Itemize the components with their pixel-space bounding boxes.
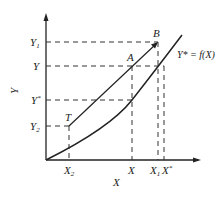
- x2-label: X2: [63, 164, 75, 178]
- x1-label: X1: [149, 164, 160, 178]
- x-label: X: [127, 164, 136, 176]
- curve-label: Y* = f(X): [177, 49, 216, 61]
- x-axis-arrow-icon: [193, 158, 201, 163]
- xstar-label: X*: [161, 164, 173, 176]
- y-axis-arrow-icon: [44, 13, 49, 21]
- x-axis-title: X: [112, 176, 121, 188]
- y-axis-title: Y: [8, 86, 20, 94]
- equilibrium-curve: [46, 35, 182, 160]
- point-b-label: B: [153, 27, 160, 39]
- point-a-label: A: [126, 51, 134, 63]
- y-label: Y: [33, 60, 41, 72]
- ystar-label: Y*: [31, 94, 41, 106]
- guide-lines: [46, 42, 164, 160]
- point-t-label: T: [65, 111, 72, 123]
- equilibrium-diagram: Y1 Y Y* Y2 X2 X X1 X* X Y B A T Y* = f(X…: [0, 0, 222, 198]
- y2-label: Y2: [30, 120, 40, 134]
- y1-label: Y1: [30, 36, 40, 50]
